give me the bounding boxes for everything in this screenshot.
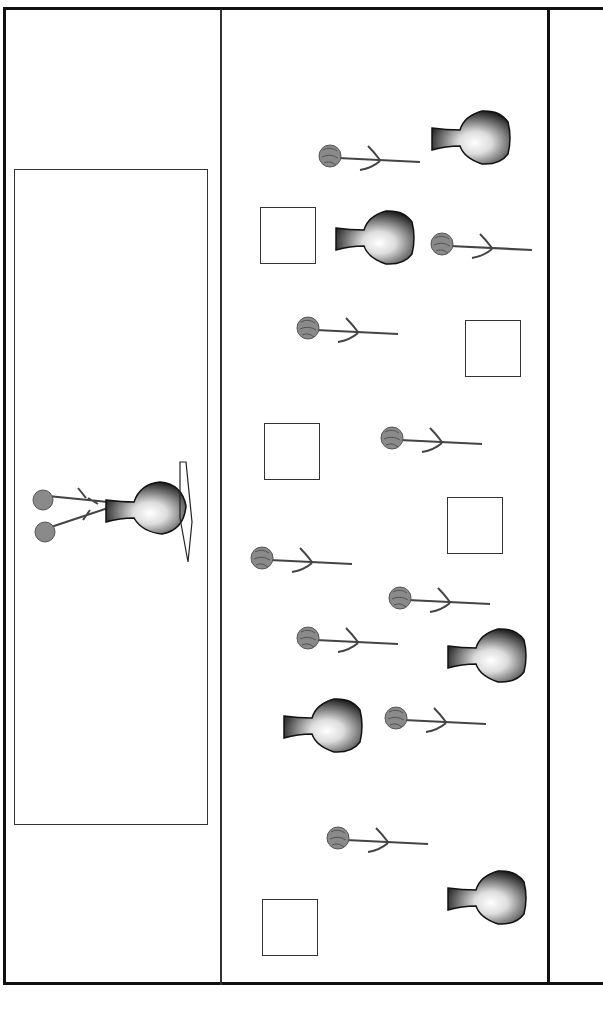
panel-divider-right	[547, 9, 550, 985]
carnation-flower-icon	[296, 620, 400, 664]
carnation-flower-icon	[430, 226, 534, 270]
panel-divider-left	[220, 9, 222, 985]
answer-box[interactable]	[260, 207, 316, 264]
carnation-flower-icon	[318, 138, 422, 182]
vase-icon	[430, 108, 514, 172]
carnation-flower-icon	[296, 310, 400, 354]
carnation-flower-icon	[384, 700, 488, 744]
answer-box[interactable]	[465, 320, 521, 377]
answer-box[interactable]	[262, 899, 318, 956]
vase-icon	[446, 626, 530, 690]
vase-icon	[282, 696, 366, 760]
vase-icon	[334, 208, 418, 272]
example-vase-with-flowers	[28, 458, 198, 572]
answer-box[interactable]	[447, 497, 503, 554]
carnation-flower-icon	[326, 820, 430, 864]
vase-icon	[446, 868, 530, 932]
carnation-flower-icon	[250, 540, 354, 584]
carnation-flower-icon	[388, 580, 492, 624]
answer-box[interactable]	[264, 423, 320, 480]
carnation-flower-icon	[380, 420, 484, 464]
